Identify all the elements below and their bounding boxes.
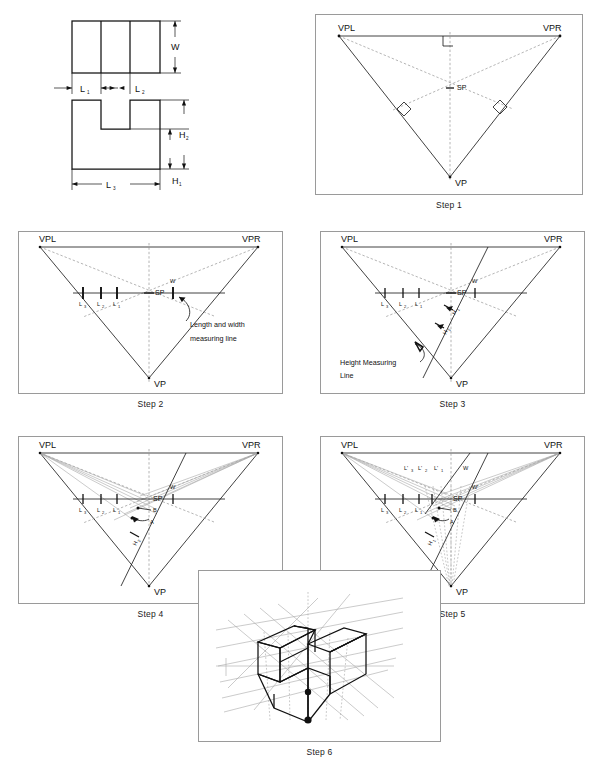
step-2-l3-label: L (79, 301, 82, 307)
dimension-l3-subscript: 3 (113, 186, 116, 191)
point-b-marker: B (438, 507, 458, 514)
front-view (72, 100, 160, 169)
dimension-l2-label: L (135, 84, 140, 94)
step-3-l2-subscript: 2 (404, 304, 407, 309)
step-5-l1-prime-label: L' (434, 465, 438, 471)
dimension-h2-subscript: 2 (186, 136, 189, 141)
vp-vertex-dot (148, 585, 151, 588)
step-3-sp-label: SP (457, 289, 467, 296)
vpr-vertex-dot (559, 246, 562, 249)
step-3-w-label: W (472, 278, 478, 284)
step-4-l2-subscript: 2 (102, 510, 105, 515)
step-3-l3-label: L (381, 301, 384, 307)
annotation-leader (415, 342, 424, 362)
step-2-l2-subscript: 2 (102, 304, 105, 309)
step-1-vp-label: VP (455, 178, 467, 188)
step-4-w-label: W (170, 484, 176, 490)
step-2-l3-subscript: 3 (84, 304, 87, 309)
step-4-vpl-label: VPL (39, 440, 56, 450)
construction-line-web (216, 592, 403, 722)
step-4-vpr-label: VPR (242, 440, 261, 450)
step-4-l3-label: L (79, 507, 82, 513)
step-4-sp-label: SP (153, 495, 163, 502)
vpr-convergence-lines (417, 453, 560, 520)
step-5-l3-prime-subscript: 3 (411, 468, 414, 473)
vpr-vertex-dot (257, 452, 260, 455)
step-5-l2-subscript: 2 (404, 510, 407, 515)
step-2-vpl-label: VPL (39, 234, 56, 244)
step-5-l2-prime-label: L' (418, 465, 422, 471)
step-2-vp-label: VP (154, 379, 166, 389)
dimension-h2-label: H (179, 130, 186, 140)
step-4-vp-label: VP (154, 587, 166, 597)
vpl-vertex-dot (39, 452, 42, 455)
dimension-h1-label: H (172, 176, 179, 186)
step-2-l1-label: L (113, 301, 116, 307)
step-2-caption: Step 2 (18, 399, 283, 409)
step-5-vpl-label: VPL (341, 440, 358, 450)
step-4-l3-subscript: 3 (84, 510, 87, 515)
vpl-vertex-dot (39, 246, 42, 249)
annotation-leader (179, 297, 190, 321)
dimension-h1-subscript: 1 (179, 182, 182, 187)
step-5-l2-label: L (399, 507, 402, 513)
step-6-diagram (198, 570, 441, 742)
step-3-caption: Step 3 (320, 399, 585, 409)
step-1-sp-label: SP (457, 84, 467, 91)
step-3-l2-label: L (399, 301, 402, 307)
step-1-diagram: VPL VPR VP SP (315, 14, 583, 195)
dimension-l1-l2: L 1 L 2 (54, 73, 145, 95)
step-1-vpr-label: VPR (543, 23, 562, 33)
step-5-l3-subscript: 3 (386, 510, 389, 515)
dimension-w-label: W (171, 42, 180, 52)
step-5-l1-prime-subscript: 1 (441, 468, 444, 473)
step-2-l2-label: L (97, 301, 100, 307)
step-5-w-prime-label: W' (472, 484, 478, 490)
step-3-l3-subscript: 3 (386, 304, 389, 309)
dimension-l1-subscript: 1 (87, 90, 90, 95)
step-6-panel: Step 6 (198, 570, 441, 742)
perpendicular-construction-lines (40, 243, 258, 382)
step-4-l1-label: L (113, 507, 116, 513)
step-1-panel: VPL VPR VP SP Step 1 (315, 14, 583, 195)
step-3-panel: L 3 L 2 L 1 W SP H 1 H 2 (320, 231, 585, 394)
orthographic-svg: W L 1 L 2 (46, 8, 256, 203)
step-5-sp-label: SP (453, 495, 463, 502)
step-5-l1-label: L (415, 507, 418, 513)
vp-vertex-dot (148, 377, 151, 380)
orthographic-views: W L 1 L 2 (46, 8, 256, 203)
step-6-caption: Step 6 (198, 747, 441, 757)
step-5-l3-label: L (381, 507, 384, 513)
step-2-annotation-line-1: Length and width (190, 320, 245, 329)
vp-vertex-dot (450, 377, 453, 380)
vpl-vertex-dot (341, 452, 344, 455)
step-4-point-a-label: A (150, 519, 154, 525)
step-2-diagram: L 3 L 2 L 1 W SP VPL VPR VP Length and w… (18, 231, 283, 394)
step-5-l2-prime-subscript: 2 (425, 468, 428, 473)
point-a-marker: A (131, 516, 155, 525)
point-a-marker: A (432, 516, 455, 525)
upper-measuring-line (425, 453, 470, 514)
step-4-h2-subscript: 2 (136, 538, 142, 543)
perpendicular-construction-lines (339, 32, 560, 181)
step-5-w-upper-label: W (463, 465, 469, 471)
step-3-l1-label: L (415, 301, 418, 307)
step-2-panel: L 3 L 2 L 1 W SP VPL VPR VP Length and w… (18, 231, 283, 394)
step-5-l3-prime-label: L' (404, 465, 408, 471)
vpr-vertex-dot (257, 246, 260, 249)
vpr-vertex-dot (559, 452, 562, 455)
step-1-caption: Step 1 (315, 200, 583, 210)
step-4-l2-label: L (97, 507, 100, 513)
vpr-vertex-dot (559, 35, 562, 38)
figure-sheet: W L 1 L 2 (0, 0, 594, 770)
vpl-vertex-dot (338, 35, 341, 38)
step-4-point-b-label: B (153, 507, 157, 513)
step-2-w-label: W (170, 278, 176, 284)
step-1-vpl-label: VPL (338, 23, 355, 33)
step-2-l1-subscript: 1 (118, 304, 121, 309)
vp-vertex-dot (449, 176, 452, 179)
step-3-diagram: L 3 L 2 L 1 W SP H 1 H 2 (320, 231, 585, 394)
right-angle-marks (397, 36, 507, 116)
vp-vertex-dot (450, 585, 453, 588)
vpl-vertex-dot (341, 246, 344, 249)
